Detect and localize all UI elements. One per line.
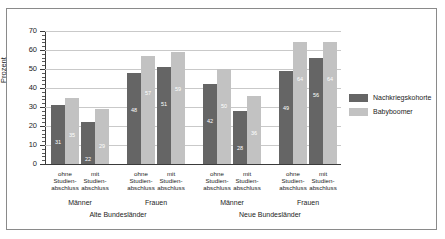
- y-tick-mark: [40, 164, 45, 165]
- y-tick-label: 0: [15, 160, 37, 168]
- bar-value-label: 51: [157, 101, 171, 107]
- bar: 50: [217, 69, 231, 164]
- group-label: Männer: [39, 199, 121, 207]
- region-label: Neue Bundesländer: [220, 211, 320, 219]
- y-axis-title: Prozent: [0, 57, 8, 83]
- group-label: Frauen: [267, 199, 349, 207]
- legend-item: Nachkriegskohorte: [349, 92, 431, 103]
- bar-value-label: 22: [81, 156, 95, 162]
- bar: 28: [233, 111, 247, 164]
- y-tick-label: 70: [15, 27, 37, 35]
- bar: 36: [247, 96, 261, 164]
- x-tick-label: mit Studien- abschluss: [151, 170, 191, 192]
- bar: 64: [293, 42, 307, 164]
- bar: 42: [203, 84, 217, 164]
- gridline: [45, 31, 341, 32]
- bar: 56: [309, 58, 323, 164]
- bar: 22: [81, 122, 95, 164]
- legend-swatch: [349, 108, 368, 116]
- legend-item: Babyboomer: [349, 106, 431, 117]
- bar-value-label: 36: [247, 130, 261, 136]
- legend-label: Babyboomer: [373, 108, 413, 115]
- y-tick-label: 40: [15, 84, 37, 92]
- group-label: Männer: [191, 199, 273, 207]
- plot-area: 31352229485751594250283649645664: [45, 31, 341, 164]
- bar-value-label: 59: [171, 86, 185, 92]
- bar: 57: [141, 56, 155, 164]
- bar: 29: [95, 109, 109, 164]
- bar: 48: [127, 73, 141, 164]
- x-tick-label: mit Studien- abschluss: [75, 170, 115, 192]
- legend-label: Nachkriegskohorte: [373, 94, 431, 101]
- bar-value-label: 35: [65, 132, 79, 138]
- chart-legend: NachkriegskohorteBabyboomer: [349, 92, 431, 120]
- bar: 51: [157, 67, 171, 164]
- y-tick-label: 10: [15, 141, 37, 149]
- y-tick-label: 20: [15, 122, 37, 130]
- bar-value-label: 49: [279, 105, 293, 111]
- y-tick-label: 30: [15, 103, 37, 111]
- bar-value-label: 50: [217, 103, 231, 109]
- x-tick-label: mit Studien- abschluss: [227, 170, 267, 192]
- bar-value-label: 29: [95, 143, 109, 149]
- bar: 31: [51, 105, 65, 164]
- y-tick-label: 60: [15, 46, 37, 54]
- chart-figure: Prozent 010203040506070 3135222948575159…: [0, 0, 445, 239]
- legend-swatch: [349, 94, 368, 102]
- y-tick-label: 50: [15, 65, 37, 73]
- bar-value-label: 56: [309, 92, 323, 98]
- x-tick-label: mit Studien- abschluss: [303, 170, 343, 192]
- bar-value-label: 48: [127, 107, 141, 113]
- region-label: Alte Bundesländer: [68, 211, 168, 219]
- group-label: Frauen: [115, 199, 197, 207]
- bar-value-label: 57: [141, 90, 155, 96]
- bar: 35: [65, 98, 79, 165]
- bar-value-label: 64: [293, 76, 307, 82]
- bar-value-label: 31: [51, 139, 65, 145]
- bar-value-label: 42: [203, 118, 217, 124]
- bar: 59: [171, 52, 185, 164]
- bar-value-label: 28: [233, 145, 247, 151]
- x-axis-line: [45, 164, 341, 165]
- bar: 64: [323, 42, 337, 164]
- chart-frame: Prozent 010203040506070 3135222948575159…: [6, 8, 437, 230]
- bar-value-label: 64: [323, 76, 337, 82]
- bar: 49: [279, 71, 293, 164]
